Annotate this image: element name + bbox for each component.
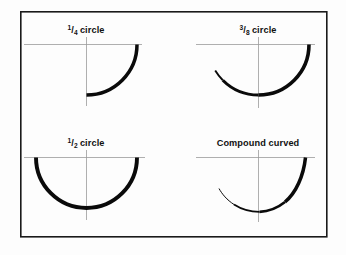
fraction-denominator-half: 2	[74, 142, 78, 149]
diagram-background	[0, 0, 346, 255]
panel-label-word-quarter: circle	[80, 25, 105, 35]
curved-shapes-diagram: 1/4circle 3/8circle 1/2circle	[0, 0, 346, 255]
panel-label-compound-curved: Compound curved	[217, 138, 300, 148]
panel-label-three-eighths-circle: 3/8circle	[239, 24, 276, 36]
fraction-denominator-three-eighths: 8	[246, 29, 250, 36]
fraction-denominator-quarter: 4	[74, 29, 78, 36]
panel-label-quarter-circle: 1/4circle	[67, 24, 104, 36]
panel-label-word-half: circle	[80, 138, 105, 148]
panel-label-half-circle: 1/2circle	[67, 137, 104, 149]
panel-label-word-three-eighths: circle	[252, 25, 277, 35]
figure-container: 1/4circle 3/8circle 1/2circle	[0, 0, 346, 255]
